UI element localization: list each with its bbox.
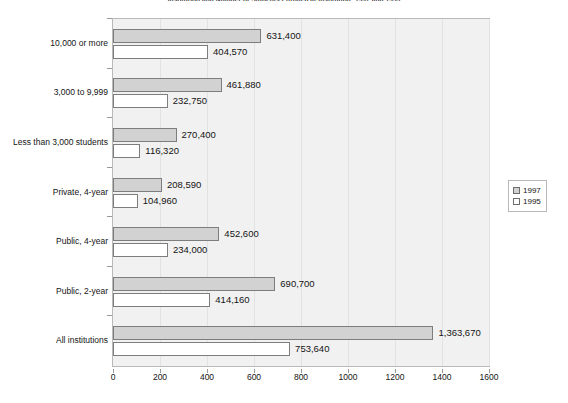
category-label-1: Public, 2-year bbox=[2, 286, 108, 296]
gridline bbox=[301, 19, 302, 366]
bar-value-label: 234,000 bbox=[173, 243, 207, 257]
legend-label: 1997 bbox=[523, 185, 541, 196]
gridline bbox=[395, 19, 396, 366]
y-axis-tick bbox=[107, 18, 112, 19]
y-axis-tick bbox=[107, 315, 112, 316]
gridline bbox=[160, 19, 161, 366]
chart-title: Institution and Number of Students Enrol… bbox=[0, 0, 568, 1]
bar-1997-3 bbox=[113, 178, 162, 192]
x-axis-tick-label-0: 0 bbox=[111, 372, 116, 382]
category-label-6: 10,000 or more bbox=[2, 38, 108, 48]
plot-area: 1,363,670753,640690,700414,160452,600234… bbox=[112, 18, 490, 367]
legend-item-1997[interactable]: 1997 bbox=[513, 185, 541, 196]
bar-value-label: 461,880 bbox=[227, 78, 261, 92]
bar-1995-4 bbox=[113, 144, 140, 158]
bar-1997-2 bbox=[113, 227, 219, 241]
category-label-0: All institutions bbox=[2, 335, 108, 345]
bar-value-label: 452,600 bbox=[224, 227, 258, 241]
y-axis-tick bbox=[107, 167, 112, 168]
bar-value-label: 232,750 bbox=[173, 94, 207, 108]
y-axis-tick bbox=[107, 266, 112, 267]
bar-1995-5 bbox=[113, 94, 168, 108]
gridline bbox=[489, 19, 490, 366]
x-axis-tick-label-1: 200 bbox=[153, 372, 167, 382]
legend-swatch-icon bbox=[513, 198, 520, 205]
category-label-3: Private, 4-year bbox=[2, 187, 108, 197]
bar-value-label: 404,570 bbox=[213, 45, 247, 59]
x-axis-tick-label-5: 1000 bbox=[339, 372, 358, 382]
x-axis-tick-label-2: 400 bbox=[200, 372, 214, 382]
bar-1997-5 bbox=[113, 78, 222, 92]
x-axis-tick-label-7: 1400 bbox=[433, 372, 452, 382]
category-label-2: Public, 4-year bbox=[2, 236, 108, 246]
y-axis-tick bbox=[107, 216, 112, 217]
category-label-5: 3,000 to 9,999 bbox=[2, 87, 108, 97]
bar-value-label: 270,400 bbox=[182, 128, 216, 142]
bar-1997-0 bbox=[113, 326, 433, 340]
y-axis-tick bbox=[107, 117, 112, 118]
x-axis-tick-label-4: 800 bbox=[294, 372, 308, 382]
bar-1997-1 bbox=[113, 277, 275, 291]
bar-value-label: 208,590 bbox=[167, 178, 201, 192]
gridline bbox=[254, 19, 255, 366]
legend-label: 1995 bbox=[523, 196, 541, 207]
x-axis-tick-labels: 02004006008001000120014001600 bbox=[112, 369, 490, 385]
legend-item-1995[interactable]: 1995 bbox=[513, 196, 541, 207]
x-axis-tick-label-3: 600 bbox=[247, 372, 261, 382]
gridline bbox=[207, 19, 208, 366]
gridline bbox=[348, 19, 349, 366]
bar-1997-4 bbox=[113, 128, 177, 142]
bar-value-label: 1,363,670 bbox=[438, 326, 480, 340]
bar-value-label: 104,960 bbox=[143, 194, 177, 208]
bar-1995-0 bbox=[113, 342, 290, 356]
bar-value-label: 690,700 bbox=[280, 277, 314, 291]
bar-value-label: 753,640 bbox=[295, 342, 329, 356]
legend-swatch-icon bbox=[513, 187, 520, 194]
y-axis-tick bbox=[107, 68, 112, 69]
bar-1997-6 bbox=[113, 29, 261, 43]
gridline bbox=[442, 19, 443, 366]
bar-1995-2 bbox=[113, 243, 168, 257]
chart-legend: 19971995 bbox=[508, 180, 547, 212]
bar-1995-6 bbox=[113, 45, 208, 59]
category-label-4: Less than 3,000 students bbox=[2, 137, 108, 147]
bar-1995-3 bbox=[113, 194, 138, 208]
bar-value-label: 631,400 bbox=[266, 29, 300, 43]
y-axis-category-labels: All institutionsPublic, 2-yearPublic, 4-… bbox=[0, 18, 108, 367]
x-axis-tick-label-8: 1600 bbox=[480, 372, 499, 382]
bar-value-label: 414,160 bbox=[215, 293, 249, 307]
bar-1995-1 bbox=[113, 293, 210, 307]
x-axis-tick-label-6: 1200 bbox=[386, 372, 405, 382]
bar-value-label: 116,320 bbox=[145, 144, 179, 158]
